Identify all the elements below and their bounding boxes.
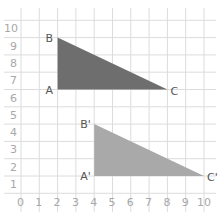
vertex-label: B	[46, 32, 54, 45]
vertex-label: C'	[207, 171, 218, 184]
x-tick-label: 4	[90, 196, 97, 209]
x-tick-label: 5	[109, 196, 116, 209]
x-tick-label: 9	[182, 196, 189, 209]
x-tick-label: 6	[127, 196, 134, 209]
x-tick-label: 2	[54, 196, 61, 209]
y-tick-label: 7	[10, 74, 17, 87]
y-tick-label: 1	[10, 178, 17, 191]
coordinate-grid: 01234567891012345678910 ABCA'B'C'	[0, 0, 222, 217]
y-tick-label: 4	[10, 126, 17, 139]
vertex-label: A	[46, 84, 54, 97]
x-tick-label: 1	[35, 196, 42, 209]
y-tick-label: 6	[10, 92, 17, 105]
vertex-label: A'	[80, 170, 91, 183]
x-tick-label: 8	[163, 196, 170, 209]
x-tick-label: 0	[17, 196, 24, 209]
y-tick-label: 2	[10, 161, 17, 174]
axis-tick-labels: 01234567891012345678910	[4, 22, 211, 209]
y-tick-label: 8	[10, 57, 17, 70]
x-tick-label: 3	[72, 196, 79, 209]
y-tick-label: 3	[10, 143, 17, 156]
grid-lines	[4, 8, 216, 212]
vertex-label: B'	[80, 118, 91, 131]
y-tick-label: 10	[4, 22, 18, 35]
y-tick-label: 5	[10, 109, 17, 122]
vertex-label: C	[170, 85, 178, 98]
x-tick-label: 10	[197, 196, 211, 209]
x-tick-label: 7	[145, 196, 152, 209]
y-tick-label: 9	[10, 40, 17, 53]
